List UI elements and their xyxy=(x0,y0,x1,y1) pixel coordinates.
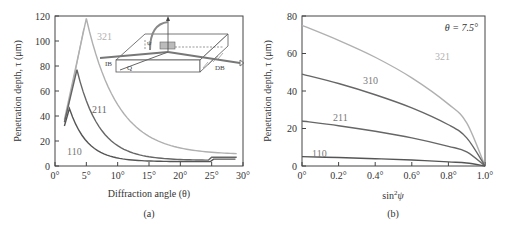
series-line-110 xyxy=(64,109,235,162)
y-tick-label: 120 xyxy=(35,11,50,22)
y-tick-label: 20 xyxy=(287,123,297,134)
caption-a: (a) xyxy=(143,208,154,220)
series-line-110 xyxy=(302,157,485,166)
curve-label-321: 321 xyxy=(97,31,112,42)
caption-b: (b) xyxy=(387,208,399,220)
series-line-310 xyxy=(302,74,485,166)
curve-label-211: 211 xyxy=(333,112,348,123)
y-tick-label: 0 xyxy=(45,161,50,172)
curve-label-310: 310 xyxy=(363,75,378,86)
curve-label-321: 321 xyxy=(435,51,450,62)
series-line-321 xyxy=(302,25,485,166)
x-tick-label: 15° xyxy=(142,170,156,181)
x-tick-label: 1.0° xyxy=(477,170,494,181)
x-tick-label: 0.2° xyxy=(330,170,347,181)
curve-label-110: 110 xyxy=(67,146,82,157)
x-axis-label-b: sin2ψ xyxy=(382,189,404,201)
x-tick-label: 5° xyxy=(82,170,91,181)
y-tick-label: 100 xyxy=(35,36,50,47)
inset-label-db: DB xyxy=(215,64,225,72)
y-tick-label: 40 xyxy=(40,111,50,122)
x-tick-label: 0.4° xyxy=(367,170,384,181)
inset-label-q: Q xyxy=(127,64,132,72)
inset-label-psi: ψ xyxy=(147,39,152,47)
inset-schematic: ψIBQDB xyxy=(100,16,244,72)
x-tick-label: 0° xyxy=(298,170,307,181)
curve-label-211: 211 xyxy=(92,104,107,115)
y-tick-label: 20 xyxy=(40,136,50,147)
series-line-211 xyxy=(64,70,236,160)
plot-frame xyxy=(302,16,485,166)
chart-panel-b: 0°0.2°0.4°0.6°0.8°1.0°020406080321310211… xyxy=(287,11,493,182)
y-tick-label: 60 xyxy=(287,48,297,59)
x-tick-label: 0.8° xyxy=(440,170,457,181)
x-tick-label: 0.6° xyxy=(404,170,421,181)
y-tick-label: 80 xyxy=(287,11,297,22)
x-tick-label: 0° xyxy=(51,170,60,181)
x-axis-label-a: Diffraction angle (θ) xyxy=(108,188,190,200)
y-tick-label: 40 xyxy=(287,86,297,97)
inset-label-ib: IB xyxy=(105,60,112,68)
curve-label-110: 110 xyxy=(312,148,327,159)
x-tick-label: 25° xyxy=(205,170,219,181)
y-axis-label-a: Penetration depth, τ (μm) xyxy=(12,40,24,142)
x-tick-label: 30° xyxy=(236,170,250,181)
y-tick-label: 60 xyxy=(40,86,50,97)
y-tick-label: 80 xyxy=(40,61,50,72)
x-tick-label: 10° xyxy=(111,170,125,181)
y-tick-label: 0 xyxy=(292,161,297,172)
theta-annotation: θ = 7.5° xyxy=(445,22,478,33)
x-tick-label: 20° xyxy=(173,170,187,181)
y-axis-label-b: Penetration depth, τ (μm) xyxy=(262,40,274,142)
figure: 0°5°10°15°20°25°30°020406080100120321211… xyxy=(0,0,506,231)
